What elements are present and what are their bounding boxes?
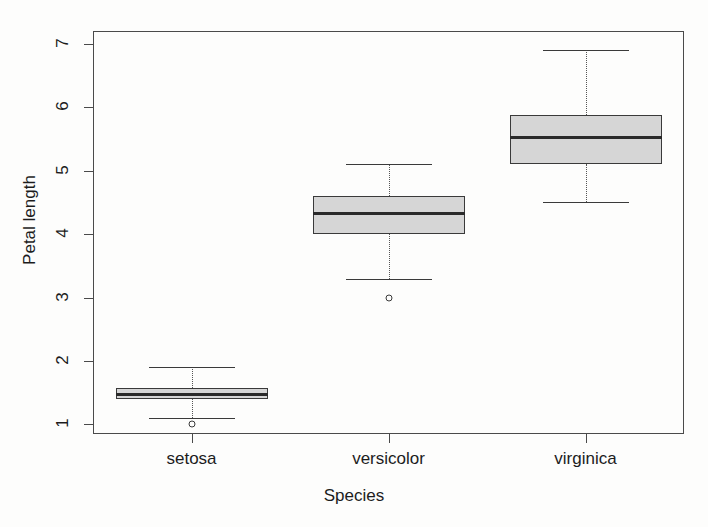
whisker-cap-upper — [149, 367, 235, 368]
whisker-upper — [586, 50, 587, 115]
whisker-cap-upper — [346, 164, 432, 165]
x-axis-tick — [389, 434, 390, 443]
y-axis-tick — [84, 44, 93, 45]
outlier-point — [188, 421, 195, 428]
y-axis-tick-label: 2 — [53, 349, 73, 371]
y-axis-tick-label: 1 — [53, 412, 73, 434]
y-axis-tick — [84, 298, 93, 299]
whisker-cap-lower — [346, 279, 432, 280]
whisker-cap-upper — [543, 50, 629, 51]
y-axis-tick — [84, 171, 93, 172]
x-axis-tick — [192, 434, 193, 443]
boxplot-figure: 1234567 setosaversicolorvirginica Petal … — [0, 0, 708, 527]
y-axis-tick — [84, 361, 93, 362]
y-axis-tick-label: 6 — [53, 95, 73, 117]
y-axis-tick-label: 3 — [53, 286, 73, 308]
x-axis-tick — [586, 434, 587, 443]
y-axis-tick — [84, 107, 93, 108]
whisker-lower — [192, 399, 193, 418]
x-axis-tick-label: setosa — [166, 449, 216, 469]
y-axis-tick — [84, 234, 93, 235]
whisker-upper — [389, 164, 390, 196]
median-line — [116, 393, 268, 396]
whisker-cap-lower — [543, 202, 629, 203]
x-axis-tick-label: virginica — [554, 449, 616, 469]
y-axis-tick-label: 5 — [53, 159, 73, 181]
median-line — [313, 212, 465, 215]
y-axis-title: Petal length — [20, 150, 40, 290]
box-iqr — [510, 115, 662, 164]
whisker-lower — [389, 234, 390, 278]
y-axis-tick-label: 4 — [53, 222, 73, 244]
x-axis-title: Species — [0, 486, 708, 506]
whisker-upper — [192, 367, 193, 388]
y-axis-tick — [84, 424, 93, 425]
whisker-cap-lower — [149, 418, 235, 419]
median-line — [510, 136, 662, 139]
box-iqr — [313, 196, 465, 234]
outlier-point — [385, 294, 392, 301]
whisker-lower — [586, 164, 587, 202]
x-axis-tick-label: versicolor — [352, 449, 425, 469]
y-axis-tick-label: 7 — [53, 32, 73, 54]
